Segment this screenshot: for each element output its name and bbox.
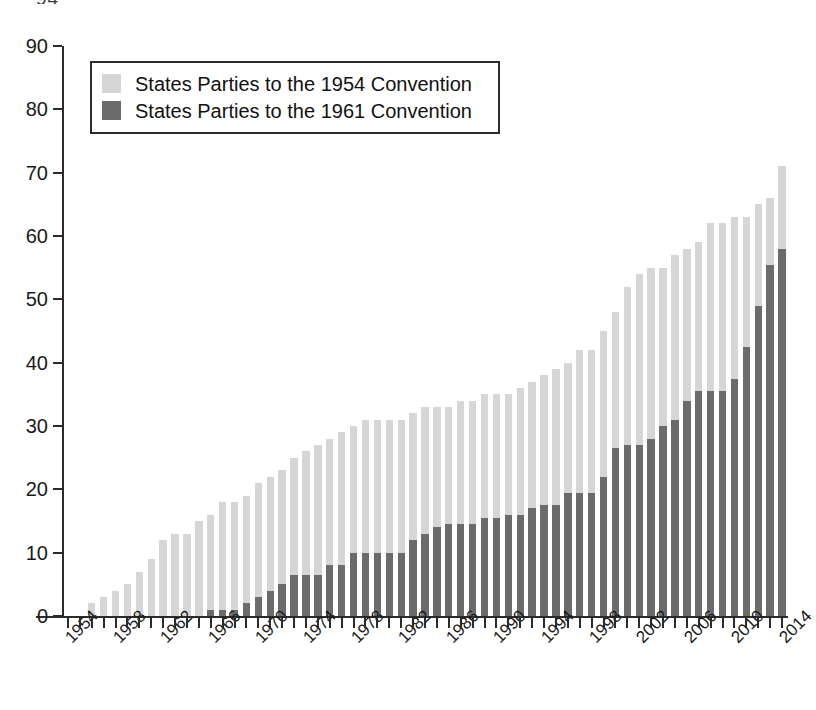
y-axis-tick (53, 488, 62, 490)
y-axis-tick (53, 172, 62, 174)
bar-2005 (671, 255, 678, 616)
x-axis-tick (472, 618, 474, 628)
x-axis-tick (412, 618, 414, 628)
bar-segment-1961 (719, 391, 726, 616)
x-axis-tick (745, 618, 747, 628)
y-axis-tick (53, 298, 62, 300)
legend-label-1954: States Parties to the 1954 Convention (135, 74, 472, 94)
x-axis-tick (710, 618, 712, 628)
bar-segment-1961 (528, 508, 535, 616)
bar-segment-1961 (290, 575, 297, 616)
bar-segment-1961 (755, 306, 762, 616)
bar-2010 (731, 217, 738, 616)
x-axis-tick (329, 618, 331, 628)
bar-1972 (278, 470, 285, 616)
bar-segment-1961 (421, 534, 428, 616)
x-axis-tick (698, 618, 700, 628)
x-axis-tick (388, 618, 390, 628)
x-axis-tick (531, 618, 533, 628)
x-axis-tick (186, 618, 188, 628)
legend-item-1954: States Parties to the 1954 Convention (102, 70, 488, 97)
bar-1980 (374, 420, 381, 616)
bar-segment-1961 (338, 565, 345, 616)
y-axis-label-slot: 80 (0, 99, 48, 119)
bar-segment-1954 (112, 591, 119, 616)
bar-segment-1961 (778, 249, 785, 616)
legend-swatch-1954-icon (102, 74, 121, 93)
x-axis-tick (103, 618, 105, 628)
y-axis-label-slot: 30 (0, 416, 48, 436)
x-axis-tick (234, 618, 236, 628)
x-axis-tick (757, 618, 759, 628)
x-axis-tick (281, 618, 283, 628)
bar-segment-1961 (636, 445, 643, 616)
bar-1974 (302, 451, 309, 616)
x-axis-tick (79, 618, 81, 628)
y-axis-label-slot: 40 (0, 353, 48, 373)
bar-segment-1961 (540, 505, 547, 616)
y-axis-tick-label: 50 (4, 289, 48, 309)
bar-segment-1961 (457, 524, 464, 616)
y-axis-label-slot: 50 (0, 289, 48, 309)
bar-2013 (766, 198, 773, 616)
bar-segment-1954 (100, 597, 107, 616)
bar-1981 (386, 420, 393, 616)
x-axis-tick (150, 618, 152, 628)
bar-segment-1961 (731, 379, 738, 617)
bar-1993 (528, 382, 535, 616)
bar-segment-1961 (659, 426, 666, 616)
bar-segment-1961 (612, 448, 619, 616)
bar-2001 (624, 287, 631, 616)
y-axis-label-slot: 20 (0, 479, 48, 499)
bar-segment-1961 (409, 540, 416, 616)
bar-segment-1954 (159, 540, 166, 616)
x-axis-tick (484, 618, 486, 628)
bar-1994 (540, 375, 547, 616)
bar-segment-1961 (683, 401, 690, 616)
bar-2004 (659, 268, 666, 616)
bar-1998 (588, 350, 595, 616)
x-axis-tick (424, 618, 426, 628)
bar-segment-1954 (231, 502, 238, 616)
bar-1958 (112, 591, 119, 616)
bar-1979 (362, 420, 369, 616)
bar-1986 (445, 407, 452, 616)
bar-segment-1961 (576, 493, 583, 617)
bar-1973 (290, 458, 297, 616)
bar-segment-1961 (433, 527, 440, 616)
bar-1987 (457, 401, 464, 616)
bar-1988 (469, 401, 476, 616)
y-axis-tick-label: 30 (4, 416, 48, 436)
bar-1992 (517, 388, 524, 616)
y-axis-tick (53, 235, 62, 237)
bar-1997 (576, 350, 583, 616)
bar-2009 (719, 223, 726, 616)
bar-segment-1961 (398, 553, 405, 616)
bar-segment-1961 (647, 439, 654, 616)
bar-segment-1961 (362, 553, 369, 616)
x-axis-tick (567, 618, 569, 628)
x-axis-tick (769, 618, 771, 628)
bar-segment-1961 (243, 603, 250, 616)
y-axis-tick (53, 108, 62, 110)
bar-1996 (564, 363, 571, 616)
bar-segment-1954 (183, 534, 190, 616)
bar-1995 (552, 369, 559, 616)
bar-1970 (255, 483, 262, 616)
bar-segment-1961 (766, 265, 773, 617)
bar-2003 (647, 268, 654, 616)
bar-1983 (409, 413, 416, 616)
bar-1976 (326, 439, 333, 616)
x-axis-tick (555, 618, 557, 628)
page-artifact-text: 94 (36, 0, 59, 4)
bar-1989 (481, 394, 488, 616)
bar-1985 (433, 407, 440, 616)
bar-2006 (683, 249, 690, 616)
bar-segment-1961 (695, 391, 702, 616)
bar-1984 (421, 407, 428, 616)
legend-swatch-1961-icon (102, 101, 121, 120)
bar-1977 (338, 432, 345, 616)
bar-segment-1961 (517, 515, 524, 616)
x-axis-tick (138, 618, 140, 628)
bar-segment-1961 (552, 505, 559, 616)
